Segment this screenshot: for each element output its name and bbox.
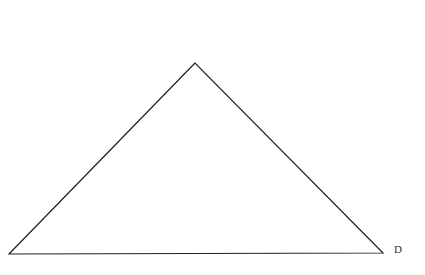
triangle-shape	[9, 63, 383, 254]
triangle-diagram: D	[0, 0, 425, 275]
vertex-label-d: D	[394, 243, 402, 255]
